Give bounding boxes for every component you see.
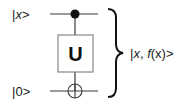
control-dot-icon xyxy=(71,10,80,19)
brace-icon xyxy=(108,9,123,97)
output-label: |x, f(x)> xyxy=(130,46,174,61)
input-label-zero: |0> xyxy=(12,84,30,99)
input-label-x: |x> xyxy=(12,7,29,22)
quantum-circuit-diagram: |x> |0> U |x, f(x)> xyxy=(0,0,191,104)
u-gate-label: U xyxy=(68,43,82,65)
